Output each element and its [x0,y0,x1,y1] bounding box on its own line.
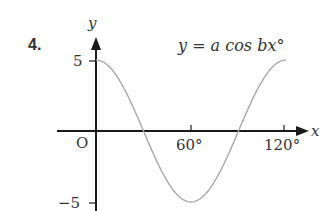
x-axis-label: x [311,124,319,139]
x-tick-label-60: 60° [176,138,203,153]
cosine-graph [0,0,325,211]
y-tick-label-5: 5 [73,54,83,69]
y-tick-label-neg5: −5 [58,196,80,211]
x-axis-arrow-icon [296,126,309,136]
equation-label: y = a cos bx° [178,36,284,55]
y-axis-label: y [88,16,96,31]
y-axis-arrow-icon [91,37,101,50]
origin-label: O [76,136,88,151]
x-tick-label-120: 120° [264,138,300,153]
